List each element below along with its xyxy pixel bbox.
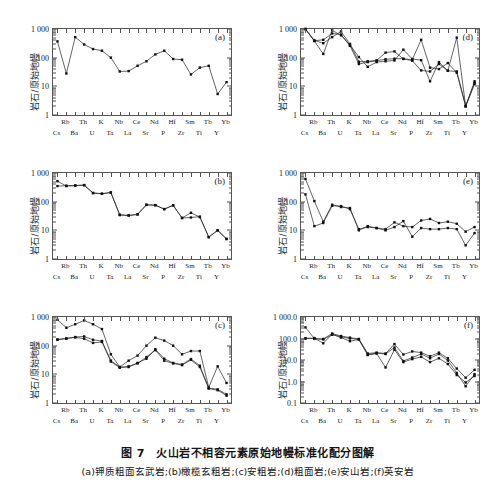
- panel-c-data-point: [172, 344, 174, 346]
- panel-c-data-point: [92, 323, 94, 325]
- panel-a-xtick-mark: [164, 112, 165, 116]
- panel-f-ytick-minor: [301, 368, 304, 369]
- panel-b-data-point: [216, 229, 218, 231]
- panel-e-ytick-minor: [301, 206, 304, 207]
- panel-e-xtick-mark: [403, 256, 404, 260]
- panel-e-xtick-mark: [421, 256, 422, 260]
- panel-a-data-point: [199, 66, 201, 68]
- panel-d-ytick-mark: [301, 115, 305, 116]
- panel-f-y-axis-label: 岩石/原始地幔: [276, 341, 289, 398]
- panel-c-xtick-mark: [200, 317, 201, 321]
- panel-f-xtick-mark: [403, 317, 404, 321]
- panel-e-data-point: [429, 218, 431, 220]
- panel-e-xtick-mark: [323, 173, 324, 177]
- panel-c-ytick-minor: [229, 377, 232, 378]
- panel-c-xtick-mark: [209, 400, 210, 404]
- panel-d-ytick-minor: [301, 40, 304, 41]
- panel-f-xlabel: Sm: [433, 406, 442, 414]
- panel-f-xtick-mark: [457, 400, 458, 404]
- panel-f-xtick-mark: [332, 317, 333, 321]
- panel-e-ytick-minor: [477, 175, 480, 176]
- panel-e-ytick-minor: [301, 179, 304, 180]
- panel-f-xtick-mark: [350, 400, 351, 404]
- panel-f-ytick-minor: [477, 364, 480, 365]
- panel-f-xlabels-top: RbThKNbCeNdHfSmTbYb: [300, 406, 480, 416]
- panel-f-ytick-minor: [301, 317, 304, 318]
- panel-e-ytick-minor: [301, 208, 304, 209]
- panel-f-ytick-minor: [477, 390, 480, 391]
- panel-d-series-line: [305, 29, 474, 106]
- panel-e-xtick-mark: [403, 173, 404, 177]
- panel-f-ytick-minor: [477, 353, 480, 354]
- panel-e-xtick-mark: [323, 256, 324, 260]
- panel-d-data-point: [349, 45, 351, 47]
- panel-e-xtick-mark: [457, 256, 458, 260]
- panel-c-ytick-minor: [229, 382, 232, 383]
- panel-d-ytick-minor: [477, 37, 480, 38]
- panel-c-series-line: [57, 320, 226, 388]
- panel-a-ytick-minor: [53, 40, 56, 41]
- panel-a-data-point: [208, 65, 210, 67]
- panel-f-ytick-minor: [301, 366, 304, 367]
- panel-a-xlabel: Zr: [178, 129, 185, 137]
- panel-b-xtick-mark: [120, 256, 121, 260]
- panel-d-xtick-mark: [332, 112, 333, 116]
- panel-e-ytick-minor: [477, 184, 480, 185]
- panel-d-ytick-minor: [301, 37, 304, 38]
- panel-e-data-point: [384, 228, 386, 230]
- panel-b-xtick-mark: [120, 173, 121, 177]
- panel-d-data-point: [429, 66, 431, 68]
- panel-b-xlabel: Ce: [133, 262, 141, 270]
- panel-d-ytick-minor: [301, 90, 304, 91]
- panel-a-ytick-minor: [53, 97, 56, 98]
- panel-f-plot-area: (f) 1 000.0100.010.01.00.1: [300, 316, 480, 404]
- panel-e-xtick-mark: [439, 256, 440, 260]
- panel-b-data-point: [172, 204, 174, 206]
- panel-d-ytick-label: 10: [289, 82, 301, 91]
- panel-grid: 岩石/原始地幔 (a) 1 000100101 RbThKNbCeNdHfSmT…: [0, 10, 496, 442]
- panel-f-xlabel: Ta: [354, 417, 361, 425]
- panel-d-ytick-minor: [477, 87, 480, 88]
- panel-b-series-svg: [53, 173, 231, 259]
- panel-a-xtick-mark: [218, 29, 219, 33]
- panel-a-xtick-mark: [66, 112, 67, 116]
- panel-c-ytick-minor: [229, 354, 232, 355]
- panel-f-ytick-label: 1.0: [287, 377, 301, 386]
- panel-d-data-point: [367, 61, 369, 63]
- panel-b-ytick-minor: [53, 174, 56, 175]
- panel-c-data-point: [56, 338, 58, 340]
- panel-a-xtick-mark: [191, 112, 192, 116]
- panel-d-xtick-mark: [359, 29, 360, 33]
- panel-f-xtick-mark: [323, 400, 324, 404]
- panel-f-ytick-minor: [301, 390, 304, 391]
- panel-b-ytick-label: 100: [37, 197, 53, 206]
- panel-d-data-point: [402, 48, 404, 50]
- panel-c-series-line: [57, 336, 226, 394]
- panel-f-ytick-minor: [477, 317, 480, 318]
- panel-d-ytick-minor: [477, 66, 480, 67]
- panel-c-xlabel: U: [90, 417, 95, 425]
- panel-d-ytick-minor: [301, 77, 304, 78]
- panel-d-data-point: [429, 70, 431, 72]
- panel-b-ytick-minor: [53, 238, 56, 239]
- panel-e-ytick-minor: [301, 202, 304, 203]
- panel-c-xtick-mark: [146, 400, 147, 404]
- panel-d-xlabel: P: [409, 129, 413, 137]
- panel-f-xtick-mark: [412, 400, 413, 404]
- panel-a-ytick-minor: [229, 97, 232, 98]
- panel-a-xlabel: U: [90, 129, 95, 137]
- panel-c-ytick-minor: [229, 350, 232, 351]
- panel-f-data-point: [402, 361, 404, 363]
- panel-f-xlabel: Th: [327, 406, 335, 414]
- panel-f-ytick-minor: [301, 362, 304, 363]
- panel-c-ytick-minor: [53, 319, 56, 320]
- panel-d-plot-area: (d) 1 000100101: [300, 28, 480, 116]
- panel-b-xlabel: Nb: [114, 262, 123, 270]
- panel-b-xtick-mark: [227, 256, 228, 260]
- panel-f-xlabel: Sr: [390, 417, 396, 425]
- panel-e-ytick-minor: [301, 184, 304, 185]
- panel-c-ytick-minor: [53, 346, 56, 347]
- panel-a-ytick-label: 1 000: [31, 25, 53, 34]
- panel-e-data-point: [438, 222, 440, 224]
- panel-f-xlabel: Cs: [301, 417, 308, 425]
